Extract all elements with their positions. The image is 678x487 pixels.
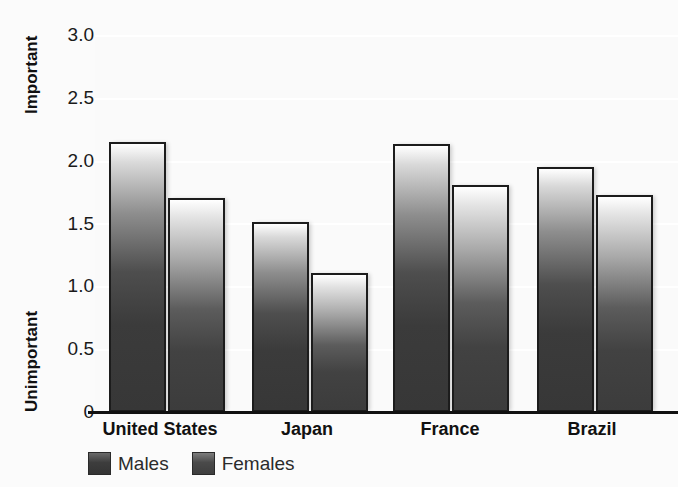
legend-item-females: Females xyxy=(192,452,295,475)
bar-chart: Important Unimportant 3.0 2.5 2.0 1.5 1.… xyxy=(0,0,678,487)
legend-label-males: Males xyxy=(118,453,169,475)
bar-japan-males xyxy=(252,222,309,412)
legend-label-females: Females xyxy=(222,453,295,475)
axis-annotation-important: Important xyxy=(0,8,30,28)
y-tick-label: 1.5 xyxy=(36,213,94,235)
y-tick-label: 2.5 xyxy=(36,87,94,109)
plot-area xyxy=(95,35,678,412)
x-axis-line xyxy=(95,411,678,414)
category-label-brazil: Brazil xyxy=(567,419,616,440)
y-axis-zero-tick xyxy=(88,411,98,414)
y-tick-label: 2.0 xyxy=(36,150,94,172)
category-label-france: France xyxy=(420,419,479,440)
legend-item-males: Males xyxy=(88,452,169,475)
bar-united-states-females xyxy=(168,198,225,412)
bars-layer xyxy=(95,35,678,412)
category-label-japan: Japan xyxy=(281,419,333,440)
y-tick-label: 0.5 xyxy=(36,338,94,360)
y-tick-label: 1.0 xyxy=(36,275,94,297)
females-swatch-icon xyxy=(192,452,215,475)
bar-brazil-males xyxy=(537,167,594,412)
axis-annotation-unimportant: Unimportant xyxy=(0,270,30,290)
bar-france-females xyxy=(452,185,509,412)
males-swatch-icon xyxy=(88,452,111,475)
bar-brazil-females xyxy=(596,195,653,412)
bar-japan-females xyxy=(311,273,368,412)
y-tick-label: 0 xyxy=(36,401,94,423)
bar-france-males xyxy=(393,144,450,412)
category-label-united-states: United States xyxy=(102,419,217,440)
y-tick-label: 3.0 xyxy=(36,24,94,46)
bar-united-states-males xyxy=(109,142,166,412)
legend: Males Females xyxy=(88,452,307,475)
